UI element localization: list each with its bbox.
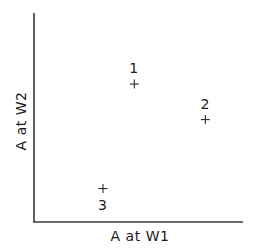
plus-marker-icon xyxy=(130,80,139,89)
point-label: 3 xyxy=(98,197,107,213)
x-axis-title: A at W1 xyxy=(111,228,170,244)
point-label: 1 xyxy=(129,60,138,76)
data-point-1: 1 xyxy=(129,60,138,89)
scatter-chart: 123 A at W1 A at W2 xyxy=(0,0,256,252)
data-points: 123 xyxy=(98,60,210,213)
data-point-3: 3 xyxy=(98,184,107,213)
point-label: 2 xyxy=(200,96,209,112)
y-axis-title: A at W2 xyxy=(13,92,29,151)
data-point-2: 2 xyxy=(200,96,209,125)
plus-marker-icon xyxy=(201,115,210,124)
plus-marker-icon xyxy=(98,184,107,193)
